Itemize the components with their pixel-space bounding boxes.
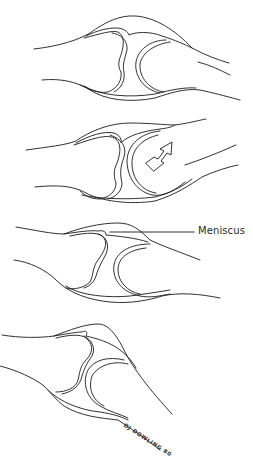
joint-rotation-drawing xyxy=(0,105,253,215)
joint-panel-meniscus: Meniscus xyxy=(0,210,253,320)
joint-panel-flexed: DJ DOWLING 80 xyxy=(0,320,253,467)
rotation-arrow-icon xyxy=(146,142,172,171)
meniscus-label: Meniscus xyxy=(198,225,245,236)
joint-flexed-drawing xyxy=(0,320,253,467)
joint-panel-rotation xyxy=(0,105,253,215)
joint-panel-normal xyxy=(0,0,253,110)
joint-normal-drawing xyxy=(0,0,253,110)
